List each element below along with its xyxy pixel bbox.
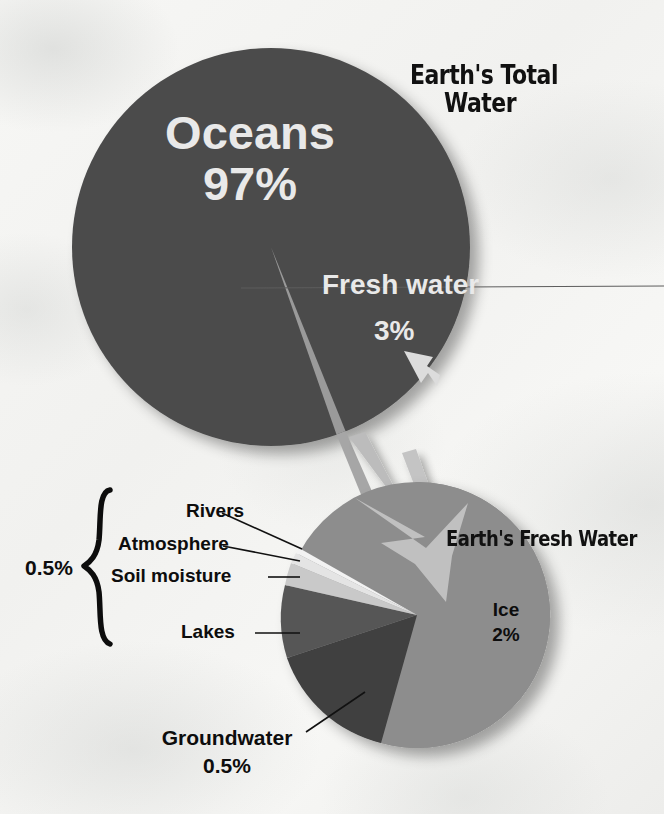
leader-atmosphere <box>223 546 300 561</box>
ice-label: Ice <box>477 600 535 620</box>
oceans-value: 97% <box>120 159 380 208</box>
oceans-label-group: Oceans 97% <box>120 108 380 209</box>
lakes-label: Lakes <box>181 622 235 642</box>
fresh-water-label: Fresh water <box>322 270 479 299</box>
ice-value: 2% <box>477 625 535 645</box>
atmosphere-label: Atmosphere <box>118 534 229 554</box>
top-chart-title-line1: Earth's Total <box>410 62 550 89</box>
ice-label-group: Ice 2% <box>477 600 535 645</box>
rivers-label: Rivers <box>186 501 244 521</box>
soil-moisture-label: Soil moisture <box>111 566 231 586</box>
groundwater-value: 0.5% <box>148 755 306 777</box>
groundwater-label-group: Groundwater 0.5% <box>148 727 306 777</box>
top-chart-title-line2: Water <box>410 89 550 116</box>
fresh-water-value: 3% <box>374 316 414 345</box>
grouping-brace <box>84 490 110 644</box>
oceans-label: Oceans <box>120 108 380 157</box>
top-chart-title: Earth's Total Water <box>410 62 550 117</box>
bracket-percent-label: 0.5% <box>25 557 73 579</box>
infographic-page: Earth's Total Water Oceans 97% Fresh wat… <box>0 0 664 814</box>
bottom-chart-title: Earth's Fresh Water <box>446 528 637 550</box>
groundwater-label: Groundwater <box>148 727 306 749</box>
